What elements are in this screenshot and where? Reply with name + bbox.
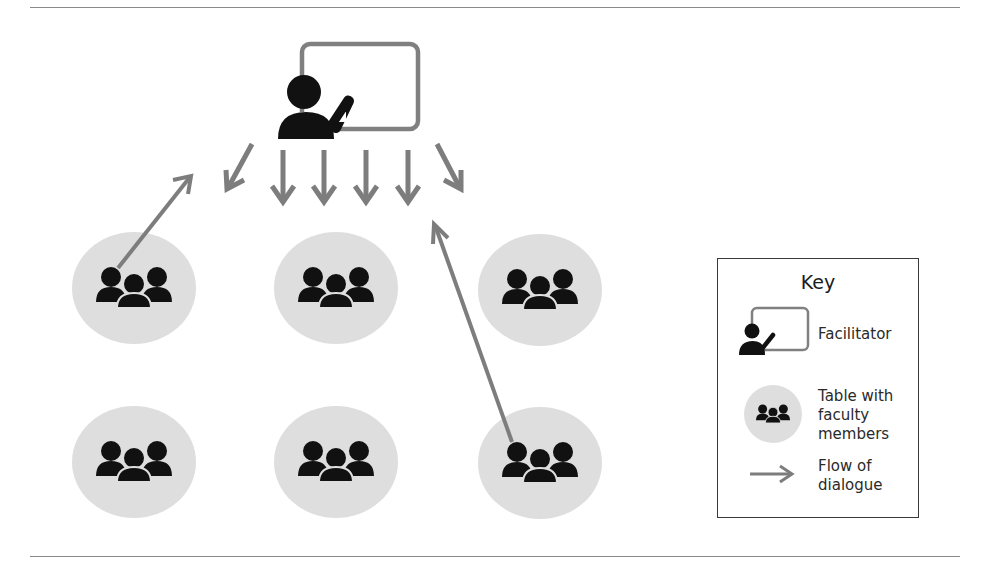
table-3: [478, 234, 602, 346]
legend-label-flow: Flow of dialogue: [818, 457, 916, 495]
table-4: [72, 406, 196, 518]
arrow-down-icon: [272, 150, 294, 202]
facilitator-icon: [278, 44, 418, 139]
table-2: [274, 232, 398, 344]
legend-label-table: Table with faculty members: [818, 387, 916, 444]
faculty-group-icon: [502, 442, 578, 483]
faculty-group-icon: [298, 441, 374, 482]
legend-box: Key Facilitator Table with faculty membe…: [717, 258, 919, 518]
faculty-group-icon: [298, 267, 374, 308]
table-6: [478, 407, 602, 519]
faculty-group-icon: [96, 441, 172, 482]
faculty-group-icon: [96, 267, 172, 308]
table-5: [274, 406, 398, 518]
arrow-down-right-icon: [437, 144, 461, 189]
arrow-down-icon: [397, 150, 419, 202]
legend-title: Key: [718, 271, 918, 293]
arrow-down-icon: [355, 150, 377, 202]
arrow-down-left-icon: [226, 144, 252, 189]
arrow-down-icon: [313, 150, 335, 202]
legend-label-facilitator: Facilitator: [818, 325, 916, 344]
faculty-group-icon: [502, 269, 578, 310]
